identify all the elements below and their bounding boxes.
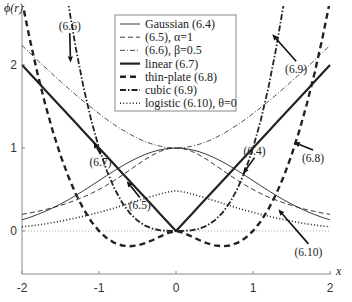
- arrowhead-icon: [68, 56, 73, 62]
- annotation-label: (6.6): [59, 20, 81, 33]
- series-line: [22, 148, 330, 214]
- series-line: [22, 148, 330, 220]
- x-tick-label: -1: [94, 281, 105, 295]
- annotation-label: (6.9): [285, 63, 307, 76]
- x-axis-title: x: [335, 264, 342, 278]
- annotation-label: (6.10): [295, 246, 323, 259]
- y-tick-label: 2: [10, 58, 17, 72]
- annotation-label: (6.4): [244, 145, 266, 158]
- legend-label: logistic (6.10), θ=0: [145, 96, 237, 110]
- legend-label: (6.5), α=1: [145, 30, 193, 44]
- x-tick-label: 2: [327, 281, 334, 295]
- x-tick-label: -2: [17, 281, 28, 295]
- y-axis-title: ϕ(r): [4, 1, 23, 15]
- x-tick-label: 0: [173, 281, 180, 295]
- annotation-arrow: [299, 144, 313, 150]
- annotation-label: (6.5): [129, 199, 151, 212]
- rbf-chart: -2-1012 012 ϕ(r) x (6.6)(6.7)(6.5)(6.9)(…: [0, 0, 352, 302]
- legend-label: Gaussian (6.4): [145, 17, 215, 31]
- annotation-arrow: [282, 214, 308, 244]
- legend-label: thin-plate (6.8): [145, 70, 217, 84]
- annotation-label: (6.7): [90, 156, 112, 169]
- annotation-arrow: [276, 39, 296, 62]
- legend: Gaussian (6.4)(6.5), α=1(6.6), β=0.5line…: [115, 15, 237, 111]
- annotation-label: (6.8): [302, 152, 324, 165]
- legend-label: cubic (6.9): [145, 83, 197, 97]
- x-tick-label: 1: [250, 281, 257, 295]
- series-line: [22, 191, 330, 227]
- y-tick-label: 1: [10, 141, 17, 155]
- y-tick-label: 0: [10, 224, 17, 238]
- legend-label: linear (6.7): [145, 57, 198, 71]
- annotation-arrow: [70, 33, 71, 56]
- x-ticks: -2-1012: [17, 271, 334, 295]
- legend-label: (6.6), β=0.5: [145, 43, 202, 57]
- y-ticks: 012: [10, 58, 25, 238]
